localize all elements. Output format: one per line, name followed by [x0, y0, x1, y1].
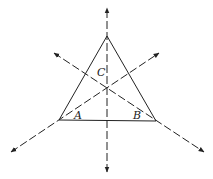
label-c: C — [97, 66, 106, 79]
label-b: B — [132, 109, 141, 122]
triangle-diagram: C A B — [0, 0, 213, 179]
label-a: A — [73, 109, 82, 122]
bisector-line-b — [54, 53, 204, 152]
bisector-line-a — [11, 53, 159, 152]
